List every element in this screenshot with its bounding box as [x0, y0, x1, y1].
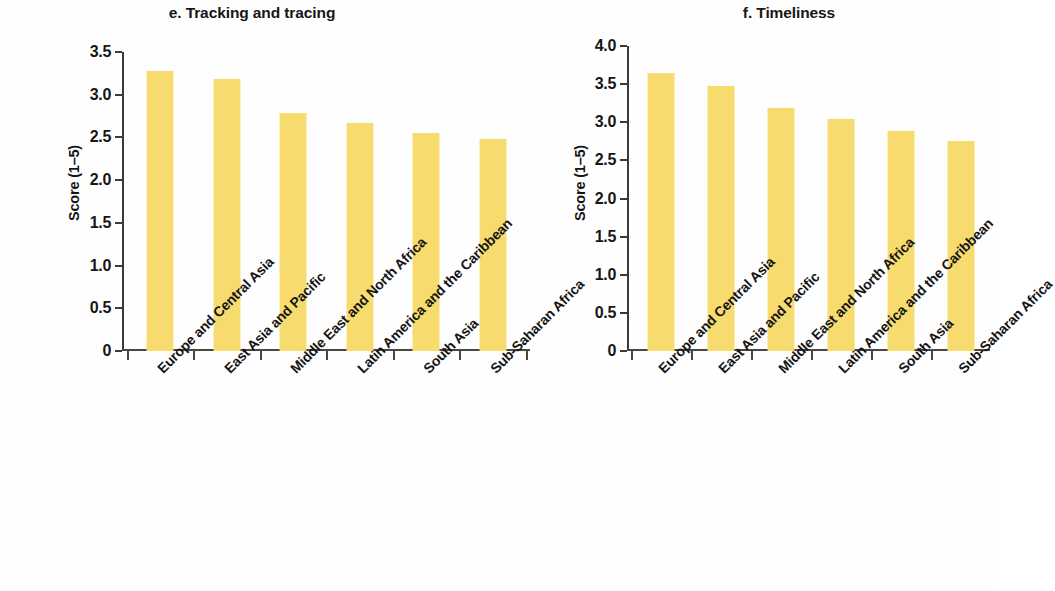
y-tick-label-f-6: 3.0: [595, 113, 616, 131]
y-axis-line-f: [627, 46, 629, 351]
y-tick-f-8: [620, 45, 627, 47]
x-tick-f-2: [751, 351, 753, 360]
y-axis-line-e: [122, 52, 124, 351]
y-tick-label-e-3: 1.5: [90, 214, 111, 232]
y-tick-f-2: [620, 274, 627, 276]
y-tick-label-f-0: 0: [607, 342, 616, 360]
y-tick-f-5: [620, 159, 627, 161]
y-tick-label-f-7: 3.5: [595, 75, 616, 93]
x-tick-e-5: [459, 351, 461, 360]
y-tick-label-e-4: 2.0: [90, 171, 111, 189]
y-tick-label-e-1: 0.5: [90, 299, 111, 317]
x-tick-f-4: [871, 351, 873, 360]
y-tick-label-f-2: 1.0: [595, 266, 616, 284]
y-tick-e-7: [115, 51, 122, 53]
y-tick-f-7: [620, 83, 627, 85]
bar-e-0: [147, 71, 174, 351]
bar-f-0: [648, 73, 675, 351]
y-tick-label-e-2: 1.0: [90, 257, 111, 275]
y-tick-e-3: [115, 222, 122, 224]
y-tick-label-f-8: 4.0: [595, 37, 616, 55]
x-tick-f-0: [631, 351, 633, 360]
x-tick-e-1: [193, 351, 195, 360]
y-tick-label-e-7: 3.5: [90, 43, 111, 61]
y-tick-f-0: [620, 350, 627, 352]
y-tick-label-f-4: 2.0: [595, 190, 616, 208]
x-tick-f-5: [931, 351, 933, 360]
x-tick-e-2: [260, 351, 262, 360]
y-tick-label-f-5: 2.5: [595, 151, 616, 169]
y-tick-f-6: [620, 121, 627, 123]
plot-area-f: 00.51.01.52.02.53.03.54.0 Europe and Cen…: [627, 46, 990, 351]
chart-title-f: f. Timeliness: [562, 4, 1016, 22]
y-tick-label-f-3: 1.5: [595, 228, 616, 246]
y-axis-title-e: Score (1–5): [66, 145, 82, 221]
y-tick-label-e-0: 0: [102, 342, 111, 360]
x-tick-e-6: [526, 351, 528, 360]
x-tick-e-4: [393, 351, 395, 360]
y-tick-f-4: [620, 198, 627, 200]
chart-panel-f: f. Timeliness Score (1–5) 00.51.01.52.02…: [540, 0, 994, 591]
y-tick-e-6: [115, 94, 122, 96]
y-tick-label-e-6: 3.0: [90, 86, 111, 104]
y-tick-f-3: [620, 236, 627, 238]
y-tick-e-0: [115, 350, 122, 352]
y-axis-title-f: Score (1–5): [572, 145, 588, 221]
plot-area-e: 00.51.01.52.02.53.03.5 Europe and Centra…: [122, 52, 530, 351]
y-tick-e-2: [115, 265, 122, 267]
y-tick-label-f-1: 0.5: [595, 304, 616, 322]
chart-panel-e: e. Tracking and tracing Score (1–5) 00.5…: [0, 0, 540, 591]
y-tick-e-4: [115, 179, 122, 181]
y-tick-f-1: [620, 312, 627, 314]
y-tick-e-1: [115, 307, 122, 309]
chart-title-e: e. Tracking and tracing: [0, 4, 522, 22]
x-tick-e-0: [127, 351, 129, 360]
x-tick-f-1: [691, 351, 693, 360]
y-tick-label-e-5: 2.5: [90, 128, 111, 146]
x-tick-e-3: [326, 351, 328, 360]
y-tick-e-5: [115, 136, 122, 138]
x-tick-f-3: [811, 351, 813, 360]
